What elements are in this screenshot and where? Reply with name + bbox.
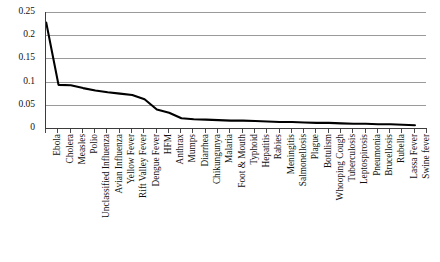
x-axis-label-lassa-fever: Lassa Fever: [408, 134, 421, 256]
x-tick: [106, 129, 107, 133]
y-tick-label: 0.05: [18, 100, 35, 110]
x-tick: [401, 129, 402, 133]
x-label-text: Swine fever: [420, 134, 433, 256]
x-label-text: Ebola: [51, 134, 64, 256]
x-tick: [266, 129, 267, 133]
x-axis-label-hfm: HFM: [162, 134, 175, 256]
x-axis-label-malaria: Malaria: [223, 134, 236, 256]
y-axis: 00.050.10.150.20.25: [0, 12, 40, 128]
x-label-text: Typhoid: [248, 134, 261, 256]
x-axis-label-rabies: Rabies: [272, 134, 285, 256]
x-label-text: Malaria: [223, 134, 236, 256]
x-tick: [180, 129, 181, 133]
x-axis-label-meningitis: Meningitis: [285, 134, 298, 256]
x-tick: [389, 129, 390, 133]
x-tick: [279, 129, 280, 133]
x-label-text: Plague: [309, 134, 322, 256]
y-tick-label: 0.25: [18, 7, 35, 17]
x-axis-label-botulism: Botulism: [322, 134, 335, 256]
x-tick: [242, 129, 243, 133]
x-axis-label-pneumonia: Pneumonia: [371, 134, 384, 256]
x-label-text: Lassa Fever: [408, 134, 421, 256]
x-axis-label-foot-mouth: Foot & Mouth: [236, 134, 249, 256]
x-axis-label-unclassified-influenza: Unclassified Influenza: [100, 134, 113, 256]
x-axis-label-measles: Measles: [76, 134, 89, 256]
x-label-text: HFM: [162, 134, 175, 256]
x-axis-label-cholera: Cholera: [64, 134, 77, 256]
x-axis-label-diarrhea: Diarrhea: [199, 134, 212, 256]
x-axis-label-swine-fever: Swine fever: [420, 134, 433, 256]
x-axis-label-mumps: Mumps: [186, 134, 199, 256]
y-axis-line: [45, 12, 46, 129]
x-tick: [205, 129, 206, 133]
x-tick: [57, 129, 58, 133]
x-label-text: Unclassified Influenza: [100, 134, 113, 256]
x-tick: [365, 129, 366, 133]
x-label-text: Leptospirosis: [358, 134, 371, 256]
x-label-text: Whooping Cough: [334, 134, 347, 256]
x-tick: [143, 129, 144, 133]
x-tick: [352, 129, 353, 133]
x-label-text: Measles: [76, 134, 89, 256]
disease-frequency-line-chart: 00.050.10.150.20.25 EbolaCholeraMeaslesP…: [0, 0, 440, 262]
x-tick: [82, 129, 83, 133]
plot-area: [45, 12, 426, 128]
x-tick: [426, 129, 427, 133]
x-axis-label-avian-influenza: Avian Influenza: [113, 134, 126, 256]
x-tick: [119, 129, 120, 133]
x-axis-label-plague: Plague: [309, 134, 322, 256]
x-label-text: Rift Valley Fever: [137, 134, 150, 256]
x-tick: [328, 129, 329, 133]
x-tick: [254, 129, 255, 133]
x-axis-label-typhoid: Typhoid: [248, 134, 261, 256]
x-label-text: Foot & Mouth: [236, 134, 249, 256]
x-axis-label-whooping-cough: Whooping Cough: [334, 134, 347, 256]
x-tick: [45, 129, 46, 133]
x-tick: [303, 129, 304, 133]
x-label-text: Meningitis: [285, 134, 298, 256]
x-label-text: Dengue Fever: [150, 134, 163, 256]
x-label-text: Mumps: [186, 134, 199, 256]
x-label-text: Cholera: [64, 134, 77, 256]
x-tick: [229, 129, 230, 133]
x-axis-label-leptospirosis: Leptospirosis: [358, 134, 371, 256]
x-tick: [377, 129, 378, 133]
x-label-text: Rabies: [272, 134, 285, 256]
x-tick: [156, 129, 157, 133]
x-axis-label-rubella: Rubella: [395, 134, 408, 256]
x-tick: [94, 129, 95, 133]
y-tick-label: 0: [30, 123, 35, 133]
x-tick: [291, 129, 292, 133]
y-tick-label: 0.2: [23, 30, 35, 40]
x-axis-label-ebola: Ebola: [51, 134, 64, 256]
x-tick: [192, 129, 193, 133]
x-label-text: Diarrhea: [199, 134, 212, 256]
x-tick: [168, 129, 169, 133]
x-tick: [315, 129, 316, 133]
x-axis-label-dengue-fever: Dengue Fever: [150, 134, 163, 256]
data-series-line: [45, 12, 426, 128]
x-tick: [70, 129, 71, 133]
y-tick-label: 0.15: [18, 54, 35, 64]
x-label-text: Pneumonia: [371, 134, 384, 256]
x-axis-label-rift-valley-fever: Rift Valley Fever: [137, 134, 150, 256]
x-label-text: Botulism: [322, 134, 335, 256]
x-tick: [217, 129, 218, 133]
x-tick: [340, 129, 341, 133]
x-tick: [131, 129, 132, 133]
x-label-text: Avian Influenza: [113, 134, 126, 256]
x-tick: [414, 129, 415, 133]
x-label-text: Rubella: [395, 134, 408, 256]
x-axis-category-labels: EbolaCholeraMeaslesPolioUnclassified Inf…: [45, 134, 427, 256]
y-tick-label: 0.1: [23, 77, 35, 87]
